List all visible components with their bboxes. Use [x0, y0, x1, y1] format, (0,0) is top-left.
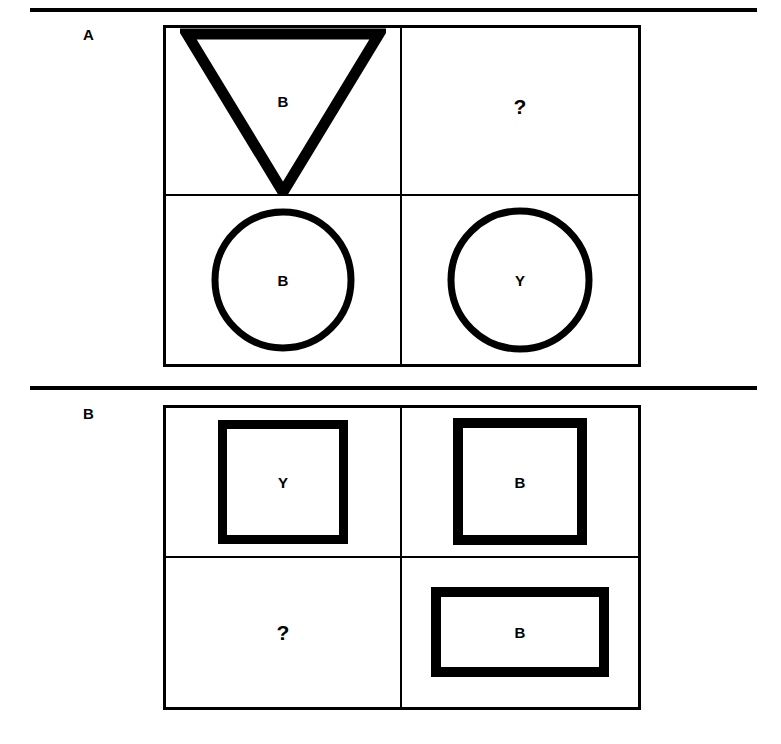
circle-shape [402, 196, 638, 364]
matrix-b-cell-top-left[interactable]: Y [166, 408, 402, 558]
matrix-panel-a: B ? B Y [163, 25, 641, 367]
panel-label-b: B [83, 406, 94, 421]
matrix-a-cell-bottom-left[interactable]: B [166, 196, 402, 364]
middle-divider-rule [30, 386, 757, 390]
question-mark: ? [277, 622, 290, 643]
rectangle-wide-shape [402, 558, 638, 708]
matrix-a-cell-bottom-right[interactable]: Y [402, 196, 638, 364]
matrix-b-cell-bottom-left[interactable]: ? [166, 558, 402, 708]
circle-shape [166, 196, 400, 364]
puzzle-canvas: A B ? B [0, 0, 781, 744]
square-shape [402, 408, 638, 556]
top-divider-rule [30, 8, 757, 12]
matrix-a-cell-top-right[interactable]: ? [402, 28, 638, 196]
matrix-b-cell-bottom-right[interactable]: B [402, 558, 638, 708]
question-mark: ? [514, 96, 527, 117]
panel-label-a: A [83, 27, 94, 42]
triangle-down-shape [166, 32, 400, 194]
matrix-a-cell-top-left[interactable]: B [166, 28, 402, 196]
matrix-b-cell-top-right[interactable]: B [402, 408, 638, 558]
matrix-panel-b: Y B ? B [163, 405, 641, 710]
square-shape [166, 408, 400, 556]
